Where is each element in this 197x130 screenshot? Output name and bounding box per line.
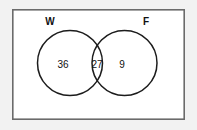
venn-diagram-figure: W F 36 27 9 bbox=[0, 0, 197, 130]
region-count-w-only: 36 bbox=[57, 59, 69, 70]
set-label-f: F bbox=[143, 16, 149, 27]
region-count-f-only: 9 bbox=[119, 59, 125, 70]
venn-diagram-canvas: W F 36 27 9 bbox=[0, 0, 197, 130]
set-label-w: W bbox=[45, 16, 55, 27]
region-count-intersection: 27 bbox=[91, 59, 103, 70]
